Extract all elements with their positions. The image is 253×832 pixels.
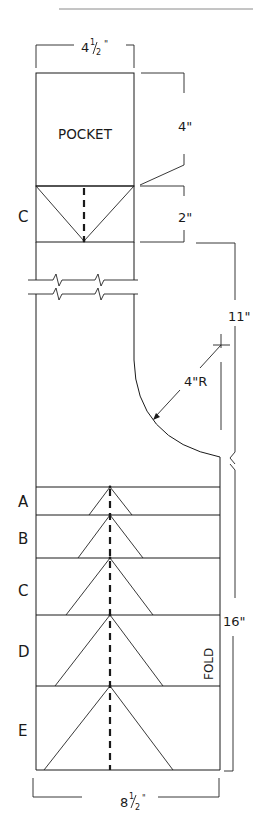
cuff-section: C	[18, 186, 134, 242]
lower-length-label: 16"	[223, 614, 246, 629]
bottom-width-whole: 8	[120, 795, 128, 810]
cuff-height-dimension: 2"	[140, 186, 192, 242]
pocket-height-dimension: 4"	[140, 73, 192, 185]
pocket-label: POCKET	[58, 126, 113, 142]
bottom-width-num: 1	[129, 792, 134, 801]
bottom-width-den: 2	[135, 803, 140, 812]
upper-length-dimension: 11"	[196, 243, 251, 464]
body-upper	[28, 242, 220, 770]
lower-length-dimension: 16"	[223, 464, 246, 771]
bottom-width-dimension: 8 1 2 "	[33, 778, 219, 812]
cuff-height-label: 2"	[178, 210, 192, 225]
radius-label: 4"R	[184, 374, 207, 389]
band-label-d: D	[18, 643, 30, 661]
top-width-den: 2	[96, 48, 101, 57]
radius-dimension: 4"R	[153, 334, 230, 430]
lower-bands: A B C D E FOLD	[18, 486, 220, 770]
upper-length-label: 11"	[228, 309, 251, 324]
band-e-triangle	[44, 686, 173, 770]
cuff-label-c: C	[18, 208, 28, 226]
pocket-section: POCKET	[36, 73, 134, 186]
band-label-e: E	[18, 722, 27, 740]
band-label-c: C	[18, 582, 28, 600]
fold-label: FOLD	[202, 648, 216, 680]
top-width-num: 1	[90, 38, 95, 47]
top-width-whole: 4	[81, 40, 89, 55]
svg-text:": "	[142, 794, 146, 803]
band-label-a: A	[18, 493, 29, 511]
pattern-diagram: 4 1 2 " POCKET C 4" 2"	[0, 0, 253, 832]
pocket-height-label: 4"	[178, 119, 192, 134]
band-label-b: B	[18, 530, 28, 548]
svg-text:": "	[104, 39, 108, 49]
top-width-dimension: 4 1 2 "	[36, 38, 134, 68]
